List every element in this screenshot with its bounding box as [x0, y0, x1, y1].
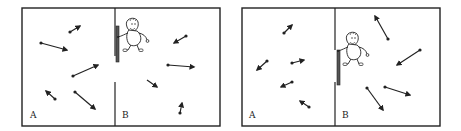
demon-icon	[117, 18, 149, 52]
molecule-arrow-icon	[367, 88, 383, 110]
maxwells-demon-figure: ABAB	[0, 0, 461, 131]
chamber-label-a: A	[29, 110, 37, 120]
molecule-arrow-icon	[284, 25, 292, 33]
molecule-arrow-icon	[46, 91, 55, 99]
molecule-arrow-icon	[385, 87, 410, 95]
molecule-arrow-icon	[174, 36, 186, 43]
chamber-label-b: B	[122, 110, 129, 120]
molecule-arrow-icon	[75, 92, 95, 109]
chamber-label-b: B	[342, 110, 349, 120]
chamber-label-a: A	[248, 110, 256, 120]
container-box	[242, 8, 440, 126]
molecule-arrow-icon	[73, 65, 98, 76]
molecule-arrow-icon	[168, 65, 194, 67]
panel-2: AB	[242, 8, 440, 126]
panel-1: AB	[22, 8, 220, 126]
molecule-arrow-icon	[397, 50, 420, 65]
molecule-arrow-icon	[292, 60, 304, 63]
trapdoor	[337, 50, 340, 85]
molecule-arrow-icon	[41, 43, 67, 50]
demon-icon	[337, 32, 369, 66]
figure-canvas: ABAB	[0, 0, 461, 131]
molecule-arrow-icon	[257, 61, 267, 70]
molecule-arrow-icon	[300, 101, 309, 107]
molecule-arrow-icon	[180, 103, 182, 113]
molecule-arrow-icon	[147, 80, 157, 87]
trapdoor	[116, 26, 119, 62]
molecule-arrow-icon	[70, 26, 80, 32]
molecule-arrow-icon	[375, 16, 388, 39]
molecule-arrow-icon	[281, 82, 292, 87]
